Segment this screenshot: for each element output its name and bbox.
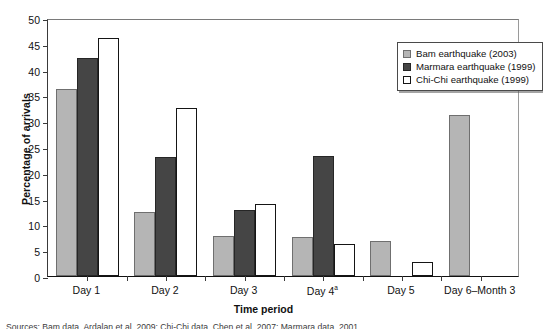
x-axis-boundary-tick [284, 276, 285, 281]
legend-item-chichi: Chi-Chi earthquake (1999) [403, 73, 535, 86]
dark-gray-swatch-icon [403, 63, 411, 71]
white-swatch-icon [403, 76, 411, 84]
chart-legend: Bam earthquake (2003) Marmara earthquake… [397, 42, 543, 91]
legend-label-marmara: Marmara earthquake (1999) [416, 61, 535, 72]
bar-open [98, 38, 119, 276]
bar-light [134, 212, 155, 277]
bar-group [48, 20, 127, 276]
x-axis-tick-label: Day 4a [307, 284, 338, 297]
bar-open [176, 108, 197, 276]
x-axis-title: Time period [0, 303, 527, 315]
bar-dark [77, 58, 98, 276]
bar-dark [155, 157, 176, 276]
y-axis-tick-label: 10 [28, 220, 40, 232]
bar-dark [234, 210, 255, 276]
footnote-marker: a [334, 284, 338, 291]
bar-light [213, 236, 234, 276]
x-axis-tick [87, 276, 88, 281]
legend-label-bam: Bam earthquake (2003) [416, 48, 517, 59]
legend-item-bam: Bam earthquake (2003) [403, 47, 535, 60]
y-axis-tick-label: 50 [28, 14, 40, 26]
bar-group [127, 20, 206, 276]
x-axis-boundary-tick [441, 276, 442, 281]
plot-area: 05101520253035404550 Bam earthquake (200… [47, 19, 519, 277]
x-axis-tick [402, 276, 403, 281]
bar-open [255, 204, 276, 276]
x-axis-boundary-tick [363, 276, 364, 281]
y-axis-tick-label: 25 [28, 143, 40, 155]
figure-caption: Sources: Bam data, Ardalan et al. 2009; … [6, 322, 436, 329]
y-axis-tick-label: 15 [28, 195, 40, 207]
x-axis-tick-label: Day 2 [151, 284, 178, 296]
legend-item-marmara: Marmara earthquake (1999) [403, 60, 535, 73]
y-axis-tick-label: 0 [34, 272, 40, 284]
x-axis-boundary-tick [127, 276, 128, 281]
y-axis-tick-label: 20 [28, 169, 40, 181]
y-axis-tick-label: 35 [28, 91, 40, 103]
x-axis-tick-label: Day 3 [230, 284, 257, 296]
y-axis-tick-label: 40 [28, 66, 40, 78]
x-axis-boundary-tick [205, 276, 206, 281]
light-gray-swatch-icon [403, 50, 411, 58]
bar-light [292, 237, 313, 276]
bar-open [412, 262, 433, 276]
bar-light [370, 241, 391, 276]
x-axis-tick [245, 276, 246, 281]
bar-group [205, 20, 284, 276]
x-axis-tick [166, 276, 167, 281]
y-axis-tick-label: 45 [28, 40, 40, 52]
y-axis-tick-label: 5 [34, 246, 40, 258]
x-axis-tick-label: Day 6–Month 3 [444, 284, 515, 296]
bar-dark [313, 156, 334, 276]
legend-label-chichi: Chi-Chi earthquake (1999) [416, 74, 529, 85]
bar-open [334, 244, 355, 276]
x-axis-tick-label: Day 1 [73, 284, 100, 296]
bar-group [284, 20, 363, 276]
x-axis-tick [323, 276, 324, 281]
bar-light [56, 89, 77, 276]
x-axis-tick [481, 276, 482, 281]
bar-light [449, 115, 470, 277]
y-axis-tick [43, 278, 48, 279]
x-axis-tick-label: Day 5 [387, 284, 414, 296]
y-axis-tick-label: 30 [28, 117, 40, 129]
